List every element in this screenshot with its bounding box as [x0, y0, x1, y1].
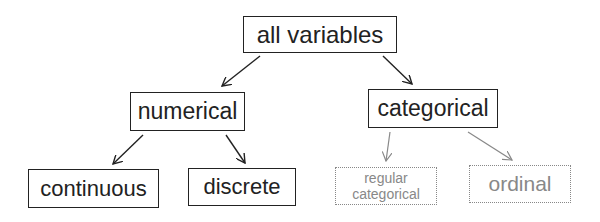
node-numerical-label: numerical — [138, 98, 238, 125]
edge-numerical-discrete — [226, 135, 245, 163]
node-continuous: continuous — [28, 169, 159, 208]
node-ordinal: ordinal — [469, 165, 571, 203]
node-categorical-sub-label: categorical — [352, 186, 420, 202]
node-discrete: discrete — [188, 168, 296, 206]
node-categorical: categorical — [368, 89, 498, 128]
node-continuous-label: continuous — [40, 176, 146, 202]
node-categorical-label: categorical — [377, 95, 488, 122]
node-regular-label: regular — [364, 170, 408, 186]
edge-numerical-continuous — [113, 135, 143, 164]
node-regular-categorical: regular categorical — [335, 167, 437, 205]
node-numerical: numerical — [130, 92, 245, 131]
node-discrete-label: discrete — [203, 174, 280, 200]
edge-root-numerical — [222, 56, 260, 86]
edge-categorical-ordinal — [468, 132, 512, 160]
node-all-variables-label: all variables — [257, 21, 384, 49]
edge-categorical-regular — [386, 132, 390, 161]
node-all-variables: all variables — [243, 16, 397, 53]
edge-root-categorical — [383, 56, 412, 84]
node-ordinal-label: ordinal — [488, 172, 551, 196]
